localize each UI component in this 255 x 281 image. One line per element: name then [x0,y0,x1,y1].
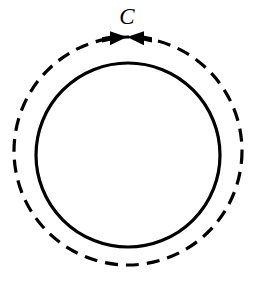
contour-label-c: C [119,4,135,29]
contour-diagram: C [0,0,255,281]
figure-root: C [0,0,255,281]
